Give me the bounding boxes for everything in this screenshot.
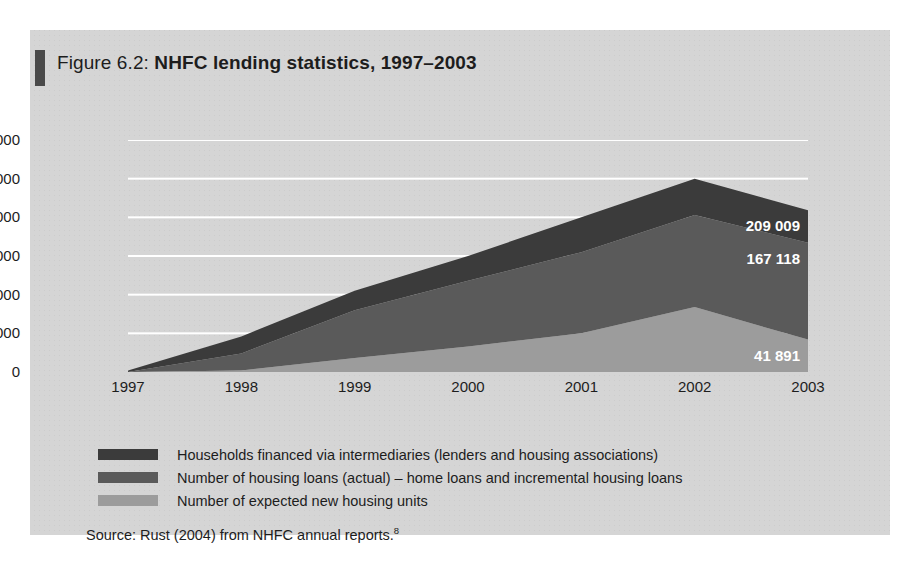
legend-label-1: Number of housing loans (actual) – home … <box>177 470 682 486</box>
legend-item-0: Households financed via intermediaries (… <box>98 445 818 464</box>
gridline-250000 <box>128 178 808 180</box>
x-axis-tick-label-2000: 2000 <box>451 378 484 395</box>
data-label-167118: 167 118 <box>702 250 800 267</box>
data-label-209009: 209 009 <box>702 217 800 234</box>
figure-page: Figure 6.2: NHFC lending statistics, 199… <box>0 0 919 561</box>
title-accent-bar <box>35 50 45 86</box>
source-footnote-marker: 8 <box>394 525 399 536</box>
gridline-300000 <box>128 140 808 141</box>
y-axis-labels: 050 000100 000150 000200 000250 000300 0… <box>0 140 20 372</box>
figure-panel: Figure 6.2: NHFC lending statistics, 199… <box>30 30 890 535</box>
legend-swatch-2 <box>98 495 158 506</box>
data-label-41891: 41 891 <box>702 347 800 364</box>
legend-item-2: Number of expected new housing units <box>98 491 818 510</box>
x-axis-tick-label-2002: 2002 <box>678 378 711 395</box>
chart-legend: Households financed via intermediaries (… <box>98 445 818 514</box>
y-axis-tick-label: 100 000 <box>0 286 20 303</box>
legend-swatch-1 <box>98 472 158 483</box>
x-axis-tick-label-1997: 1997 <box>111 378 144 395</box>
x-axis-tick-label-2003: 2003 <box>791 378 824 395</box>
y-axis-tick-label: 0 <box>0 363 20 380</box>
figure-title: Figure 6.2: NHFC lending statistics, 199… <box>57 52 477 74</box>
x-axis-tick-label-2001: 2001 <box>565 378 598 395</box>
y-axis-tick-label: 250 000 <box>0 170 20 187</box>
source-text: Source: Rust (2004) from NHFC annual rep… <box>86 527 394 543</box>
x-axis-tick-label-1998: 1998 <box>225 378 258 395</box>
x-axis-tick-label-1999: 1999 <box>338 378 371 395</box>
legend-swatch-0 <box>98 449 158 460</box>
figure-title-text: NHFC lending statistics, 1997–2003 <box>154 52 476 73</box>
legend-label-2: Number of expected new housing units <box>177 493 428 509</box>
area-series-group <box>128 179 808 372</box>
y-axis-tick-label: 150 000 <box>0 247 20 264</box>
x-axis-labels: 1997199819992000200120022003 <box>128 378 808 400</box>
source-note: Source: Rust (2004) from NHFC annual rep… <box>86 525 399 543</box>
legend-item-1: Number of housing loans (actual) – home … <box>98 468 818 487</box>
figure-label: Figure 6.2: <box>57 52 149 73</box>
y-axis-tick-label: 50 000 <box>0 324 20 341</box>
y-axis-tick-label: 300 000 <box>0 131 20 148</box>
y-axis-tick-label: 200 000 <box>0 208 20 225</box>
plot-area: 209 009167 11841 891 <box>128 140 808 372</box>
legend-label-0: Households financed via intermediaries (… <box>177 447 658 463</box>
